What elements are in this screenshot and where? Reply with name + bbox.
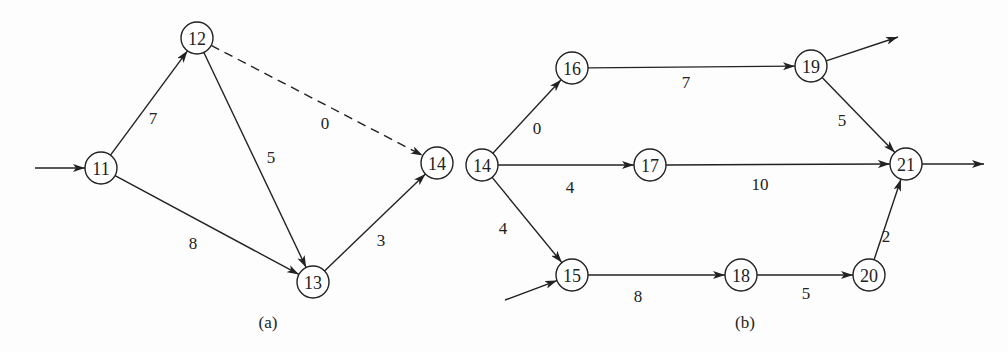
edge-11-to-12 [111,51,188,155]
edge-16-to-19 [588,66,795,68]
edge-weight-label: 5 [267,148,276,167]
edge-weight-label: 3 [377,231,386,250]
network-diagram-canvas: 111213141416171519211820 750830447105852… [0,0,1008,352]
node-15: 15 [556,259,588,291]
edge-weight-label: 7 [149,109,158,128]
edge-weight-label: 10 [752,175,769,194]
node-label: 21 [897,155,915,175]
node-label: 19 [802,57,820,77]
edge-weight-label: 0 [533,119,542,138]
node-16: 16 [556,52,588,84]
nodes-layer: 111213141416171519211820 [85,22,922,298]
node-11: 11 [85,152,117,184]
edge-19-to-21 [822,77,895,152]
edge-weight-label: 4 [566,178,575,197]
node-13: 13 [297,266,329,298]
edge-14b-to-16 [493,80,561,154]
node-19: 19 [795,50,827,82]
node-18: 18 [725,259,757,291]
node-20: 20 [853,259,885,291]
incoming-arrow [505,281,557,300]
node-14: 14 [466,149,498,181]
edge-11-to-13 [115,176,299,275]
node-12: 12 [181,22,213,54]
node-label: 18 [732,266,750,286]
edge-12-to-13 [204,52,306,267]
node-label: 11 [92,159,109,179]
edge-weight-label: 0 [321,114,330,133]
diagram-caption: (a) [259,313,278,332]
network-diagram-svg: 111213141416171519211820 750830447105852… [0,0,1008,352]
node-label: 16 [563,59,581,79]
edge-weight-label: 4 [499,219,508,238]
node-label: 14 [428,154,446,174]
diagram-caption: (b) [735,313,755,332]
edge-13-to-14a [325,174,426,271]
node-14: 14 [421,147,453,179]
edge-weight-label: 5 [802,284,811,303]
edge-12-to-14a [211,45,423,155]
edge-20-to-21 [874,179,901,260]
node-label: 20 [860,266,878,286]
node-21: 21 [890,148,922,180]
node-17: 17 [634,149,666,181]
node-label: 13 [304,273,322,293]
node-label: 14 [473,156,491,176]
edge-weight-label: 8 [634,287,643,306]
edge-weight-label: 5 [838,111,847,130]
node-label: 17 [641,156,659,176]
edge-labels-layer: 750830447105852 [149,73,891,306]
outgoing-arrow [826,37,898,61]
edge-17-to-21 [666,164,890,165]
edge-weight-label: 2 [882,227,891,246]
node-label: 15 [563,266,581,286]
edge-weight-label: 7 [682,73,691,92]
captions-layer: (a)(b) [259,313,755,332]
node-label: 12 [188,29,206,49]
edge-weight-label: 8 [189,234,198,253]
edges-layer [35,37,984,300]
